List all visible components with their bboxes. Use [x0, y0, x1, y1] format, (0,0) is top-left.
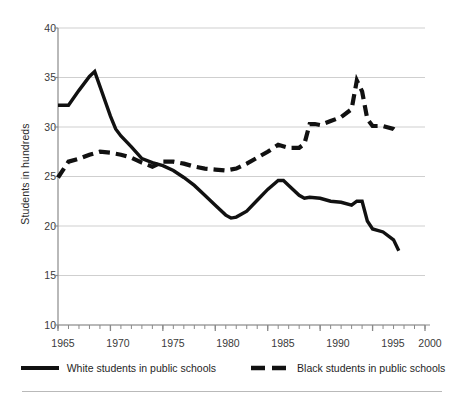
gridlines — [58, 28, 425, 325]
data-series-layer — [58, 72, 399, 251]
series-line-black-students — [58, 80, 399, 177]
legend-label-white-students: White students in public schools — [67, 362, 216, 374]
legend-label-black-students: Black students in public schools — [297, 362, 445, 374]
x-major-ticks — [58, 325, 425, 331]
legend-swatch-solid-icon — [20, 363, 60, 373]
line-chart: Students in hundreds 40 35 30 25 20 15 1… — [0, 0, 465, 400]
chart-legend: White students in public schools Black s… — [0, 362, 465, 374]
axis-lines — [54, 28, 430, 328]
legend-item-black-students[interactable]: Black students in public schools — [250, 362, 445, 374]
legend-item-white-students[interactable]: White students in public schools — [20, 362, 216, 374]
bottom-separator — [22, 391, 442, 392]
legend-swatch-dashed-icon — [250, 363, 290, 373]
plot-area — [0, 0, 465, 400]
series-line-white-students — [58, 72, 399, 251]
